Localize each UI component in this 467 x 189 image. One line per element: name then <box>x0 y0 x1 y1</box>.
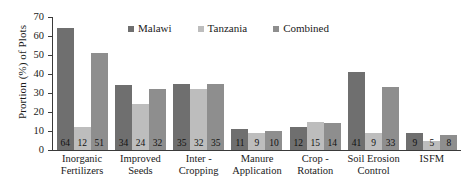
bar-tanzania[interactable]: 5 <box>423 141 440 151</box>
bar-group: 641251 <box>53 17 111 150</box>
bar-value-label: 64 <box>57 139 74 149</box>
bar-slot: 10 <box>265 17 282 150</box>
x-axis-label-line: Inter - <box>170 153 228 165</box>
bar-malawi[interactable]: 64 <box>57 28 74 150</box>
bar-tanzania[interactable]: 9 <box>365 133 382 150</box>
y-tick-mark <box>48 36 52 37</box>
bar-tanzania[interactable]: 12 <box>74 127 91 150</box>
bar-group: 41933 <box>344 17 402 150</box>
x-axis-label: ManureApplication <box>228 153 286 177</box>
bar-value-label: 15 <box>307 139 324 149</box>
bar-tanzania[interactable]: 15 <box>307 122 324 151</box>
bar-malawi[interactable]: 34 <box>115 85 132 150</box>
bar-slot: 32 <box>190 17 207 150</box>
x-axis-labels: InorganicFertilizersImprovedSeedsInter -… <box>53 153 461 177</box>
bar-tanzania[interactable]: 32 <box>190 89 207 150</box>
bar-combined[interactable]: 8 <box>440 135 457 150</box>
bar-value-label: 10 <box>265 139 282 149</box>
x-axis-label-line: Improved <box>111 153 169 165</box>
bar-combined[interactable]: 14 <box>324 123 341 150</box>
x-axis-label: ImprovedSeeds <box>111 153 169 177</box>
bar-slot: 5 <box>423 17 440 150</box>
y-tick-mark <box>48 17 52 18</box>
bar-groups: 6412513424323532351191012151441933958 <box>53 17 461 150</box>
x-axis-label-line: Application <box>228 165 286 177</box>
bar-value-label: 9 <box>406 139 423 149</box>
bar-value-label: 35 <box>173 139 190 149</box>
bar-value-label: 51 <box>91 139 108 149</box>
bar-value-label: 8 <box>440 139 457 149</box>
bar-slot: 33 <box>382 17 399 150</box>
bar-tanzania[interactable]: 24 <box>132 104 149 150</box>
bar-value-label: 14 <box>324 139 341 149</box>
x-axis-label-line: Fertilizers <box>53 165 111 177</box>
bar-slot: 41 <box>348 17 365 150</box>
x-axis-label: Soil ErosionControl <box>344 153 402 177</box>
bar-slot: 34 <box>115 17 132 150</box>
bar-value-label: 32 <box>149 139 166 149</box>
bar-group: 353235 <box>170 17 228 150</box>
bar-value-label: 5 <box>423 139 440 149</box>
bar-slot: 9 <box>248 17 265 150</box>
bar-value-label: 33 <box>382 139 399 149</box>
bar-slot: 35 <box>207 17 224 150</box>
bar-value-label: 9 <box>248 139 265 149</box>
x-axis-label-line: Control <box>344 165 402 177</box>
y-tick-mark <box>48 55 52 56</box>
y-tick-label: 70 <box>18 12 44 23</box>
bar-value-label: 41 <box>348 139 365 149</box>
bar-group: 121514 <box>286 17 344 150</box>
x-axis-label-line: Soil Erosion <box>344 153 402 165</box>
x-axis-label: Crop -Rotation <box>286 153 344 177</box>
bar-malawi[interactable]: 35 <box>173 84 190 151</box>
bar-malawi[interactable]: 9 <box>406 133 423 150</box>
bar-combined[interactable]: 32 <box>149 89 166 150</box>
y-tick-label: 20 <box>18 107 44 118</box>
y-tick-mark <box>48 93 52 94</box>
x-axis-label-line: Rotation <box>286 165 344 177</box>
bar-slot: 64 <box>57 17 74 150</box>
bar-value-label: 11 <box>231 139 248 149</box>
bar-slot: 24 <box>132 17 149 150</box>
y-tick-label: 50 <box>18 50 44 61</box>
y-tick-label: 30 <box>18 88 44 99</box>
bar-combined[interactable]: 10 <box>265 131 282 150</box>
bar-slot: 51 <box>91 17 108 150</box>
bar-slot: 32 <box>149 17 166 150</box>
bar-value-label: 9 <box>365 139 382 149</box>
y-tick-mark <box>48 131 52 132</box>
bar-value-label: 32 <box>190 139 207 149</box>
bar-malawi[interactable]: 12 <box>290 127 307 150</box>
x-axis-label-line: Manure <box>228 153 286 165</box>
bar-value-label: 12 <box>74 139 91 149</box>
bar-slot: 12 <box>290 17 307 150</box>
bar-slot: 9 <box>365 17 382 150</box>
bar-value-label: 24 <box>132 139 149 149</box>
x-axis-line <box>52 150 461 151</box>
bar-combined[interactable]: 51 <box>91 53 108 150</box>
bar-group: 958 <box>403 17 461 150</box>
bar-slot: 14 <box>324 17 341 150</box>
bar-combined[interactable]: 33 <box>382 87 399 150</box>
x-axis-label-line: Cropping <box>170 165 228 177</box>
bar-slot: 12 <box>74 17 91 150</box>
x-axis-label-line: ISFM <box>403 153 461 165</box>
bar-value-label: 35 <box>207 139 224 149</box>
x-axis-label: ISFM <box>403 153 461 177</box>
x-axis-label-line: Seeds <box>111 165 169 177</box>
bar-malawi[interactable]: 11 <box>231 129 248 150</box>
x-axis-label: InorganicFertilizers <box>53 153 111 177</box>
bar-combined[interactable]: 35 <box>207 84 224 151</box>
y-tick-mark <box>48 74 52 75</box>
y-tick-mark <box>48 112 52 113</box>
x-axis-label-line: Inorganic <box>53 153 111 165</box>
bar-slot: 15 <box>307 17 324 150</box>
y-tick-label: 40 <box>18 69 44 80</box>
bar-slot: 8 <box>440 17 457 150</box>
bar-tanzania[interactable]: 9 <box>248 133 265 150</box>
bar-malawi[interactable]: 41 <box>348 72 365 150</box>
bar-value-label: 12 <box>290 139 307 149</box>
bar-chart: Prortion (%) of Plots MalawiTanzaniaComb… <box>0 0 467 189</box>
y-tick-mark <box>48 150 52 151</box>
x-axis-label-line: Crop - <box>286 153 344 165</box>
